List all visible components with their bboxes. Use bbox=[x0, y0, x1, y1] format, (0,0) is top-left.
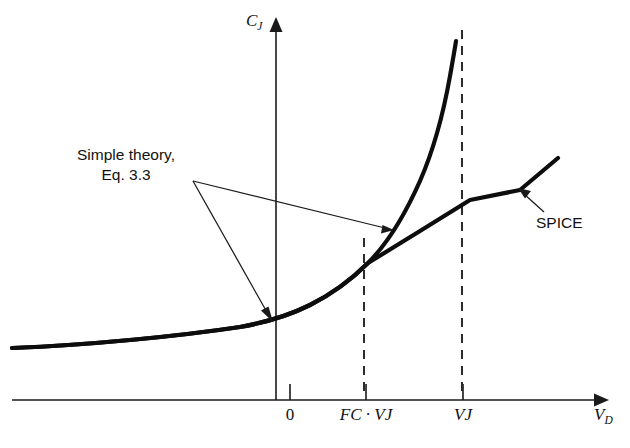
axis-ticks bbox=[290, 384, 463, 400]
y-axis-label-subscript: J bbox=[257, 20, 262, 32]
tick-label-vj: VJ bbox=[454, 404, 472, 425]
x-axis-label-base: V bbox=[594, 405, 604, 424]
curve-spice bbox=[12, 158, 558, 348]
annotation-spice: SPICE bbox=[536, 213, 583, 233]
x-axis bbox=[12, 394, 609, 407]
curve-simple-theory bbox=[12, 41, 456, 348]
tick-label-fc-vj: FC · VJ bbox=[340, 404, 392, 425]
y-axis-label-base: C bbox=[246, 11, 257, 30]
pointer-spice bbox=[518, 188, 544, 212]
pointer-simple-theory-upper bbox=[193, 181, 394, 234]
pointer-simple-theory-lower bbox=[193, 181, 273, 322]
x-axis-label-subscript: D bbox=[604, 414, 612, 426]
tick-label-origin: 0 bbox=[286, 404, 295, 425]
x-axis-label: VD bbox=[594, 404, 613, 428]
figure-junction-capacitance: CJ VD 0 FC · VJ VJ Simple theory, Eq. 3.… bbox=[0, 0, 630, 448]
annotation-simple-theory: Simple theory, Eq. 3.3 bbox=[60, 145, 192, 184]
y-axis-label: CJ bbox=[246, 10, 262, 34]
y-axis bbox=[270, 17, 283, 400]
